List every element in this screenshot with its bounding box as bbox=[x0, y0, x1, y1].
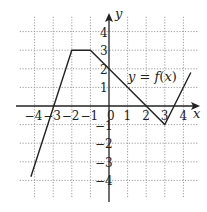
x-tick-label: 4 bbox=[179, 109, 187, 123]
y-tick-label: 4 bbox=[100, 26, 108, 40]
x-tick-label: −4 bbox=[25, 109, 43, 123]
x-axis-label: x bbox=[193, 106, 201, 121]
y-tick-label: 2 bbox=[100, 63, 108, 77]
y-tick-label: −3 bbox=[95, 156, 113, 170]
function-graph: x y −4−3−2−101234 4321−1−2−3−4 y = f(x) bbox=[0, 0, 207, 212]
y-tick-label: 3 bbox=[100, 44, 108, 58]
y-tick-label: −4 bbox=[95, 174, 113, 188]
function-label: y = f(x) bbox=[127, 69, 177, 84]
y-tick-label: 1 bbox=[100, 81, 108, 95]
x-tick-label: −2 bbox=[62, 109, 80, 123]
x-tick-label: 1 bbox=[124, 109, 132, 123]
y-tick-label: −2 bbox=[95, 137, 113, 151]
y-tick-label: −1 bbox=[95, 119, 113, 133]
y-axis-label: y bbox=[114, 6, 123, 21]
x-tick-label: 2 bbox=[142, 109, 150, 123]
